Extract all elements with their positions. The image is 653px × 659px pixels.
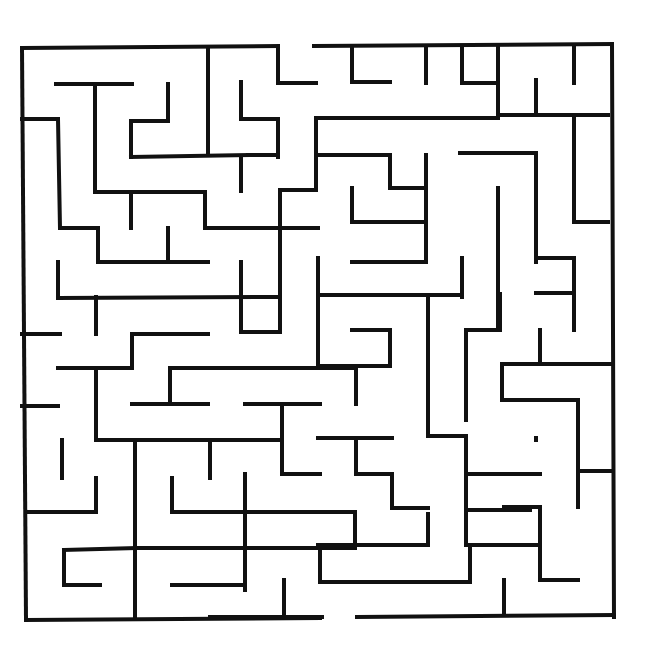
maze-wall	[58, 119, 60, 228]
maze-entrance[interactable]	[280, 30, 312, 50]
maze-wall	[357, 615, 614, 617]
maze-board	[0, 0, 653, 659]
maze-exit[interactable]	[322, 606, 355, 626]
maze-wall	[22, 46, 278, 48]
maze-wall	[58, 297, 280, 298]
maze-walls	[22, 44, 614, 620]
maze-wall	[612, 44, 614, 617]
maze-wall	[64, 548, 135, 550]
maze-wall	[131, 155, 248, 157]
maze-wall	[314, 44, 612, 46]
